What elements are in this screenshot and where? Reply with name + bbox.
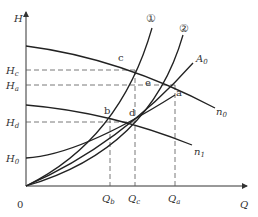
system-1-label: ①	[146, 12, 156, 25]
qc-label: Qc	[128, 193, 140, 206]
a0-label: A0	[195, 53, 208, 66]
y-axis-label: H	[13, 13, 23, 24]
qa-label: Qa	[168, 193, 180, 206]
curve-a0	[26, 63, 193, 186]
origin-label: 0	[17, 199, 23, 210]
h0-label: H0	[5, 153, 20, 166]
pump-curve-diagram: H Q 0 Hc Ha Hd H0 Qb Qc Qa ① ② A0 n0 n1 …	[0, 0, 258, 217]
x-axis-label: Q	[240, 199, 248, 210]
system-2-label: ②	[179, 22, 189, 35]
n1-label: n1	[194, 146, 205, 159]
ha-label: Ha	[5, 80, 19, 93]
point-b-label: b	[104, 105, 110, 116]
point-d-label: d	[129, 107, 136, 118]
point-c-label: c	[118, 52, 124, 63]
hc-label: Hc	[5, 65, 19, 78]
hd-label: Hd	[5, 117, 20, 130]
point-e-label: e	[145, 77, 151, 88]
qb-label: Qb	[102, 193, 115, 206]
point-a-label: a	[176, 87, 182, 98]
n0-label: n0	[216, 106, 227, 119]
